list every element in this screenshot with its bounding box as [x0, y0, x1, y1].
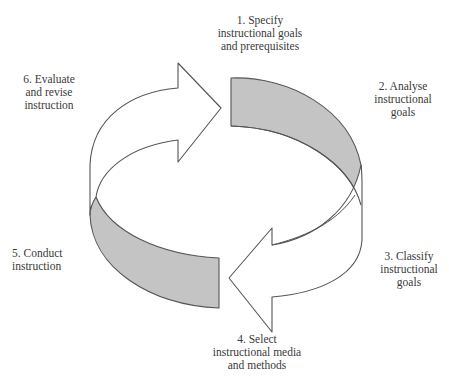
step-5-line-2: instruction — [12, 260, 92, 273]
cycle-diagram — [0, 0, 449, 379]
step-2-label: 2. Analyse instructional goals — [368, 80, 438, 119]
step-6-label: 6. Evaluate and revise instruction — [14, 73, 84, 112]
step-6-line-1: 6. Evaluate — [14, 73, 84, 86]
step-2-line-1: 2. Analyse — [368, 80, 438, 93]
step-5-line-1: 5. Conduct — [12, 247, 92, 260]
step-2-line-3: goals — [368, 106, 438, 119]
lower-left-band — [90, 197, 219, 308]
step-3-line-3: goals — [376, 276, 442, 289]
step-3-line-2: instructional — [376, 263, 442, 276]
step-6-line-2: and revise — [14, 86, 84, 99]
step-6-line-3: instruction — [14, 99, 84, 112]
upper-left-arrow — [90, 63, 221, 215]
step-4-label: 4. Select instructional media and method… — [182, 333, 332, 372]
step-4-line-2: instructional media — [182, 346, 332, 359]
step-3-line-1: 3. Classify — [376, 250, 442, 263]
step-4-line-1: 4. Select — [182, 333, 332, 346]
step-1-label: 1. Specify instructional goals and prere… — [190, 14, 330, 53]
lower-right-arrow — [229, 165, 362, 332]
step-2-line-2: instructional — [368, 93, 438, 106]
step-5-label: 5. Conduct instruction — [12, 247, 92, 273]
step-4-line-3: and methods — [182, 359, 332, 372]
upper-right-band — [231, 78, 361, 205]
step-3-label: 3. Classify instructional goals — [376, 250, 442, 289]
step-1-line-1: 1. Specify — [190, 14, 330, 27]
step-1-line-2: instructional goals — [190, 27, 330, 40]
step-1-line-3: and prerequisites — [190, 40, 330, 53]
